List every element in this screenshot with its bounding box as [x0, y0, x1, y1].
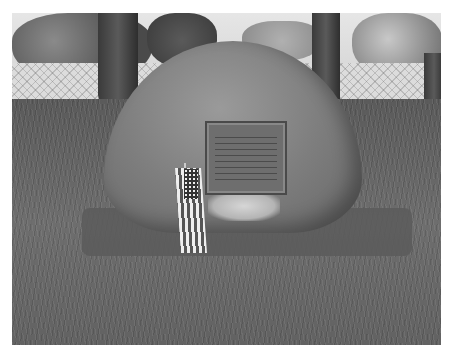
memorial-plaque: [205, 121, 287, 195]
memorial-photo: [12, 13, 441, 345]
flag-canton: [184, 169, 198, 199]
lichen-patch: [208, 191, 280, 221]
plaque-inscription: [215, 137, 277, 183]
